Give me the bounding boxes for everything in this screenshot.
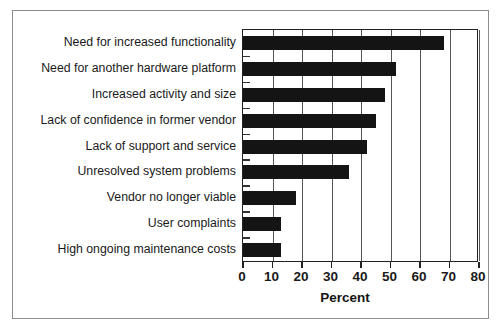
chart-figure: Need for increased functionalityNeed for…	[0, 0, 503, 332]
bar	[243, 62, 396, 76]
x-axis-tick-80	[478, 262, 480, 268]
y-axis-tick	[243, 159, 250, 161]
gridline-80	[479, 30, 480, 261]
y-axis-tick	[243, 82, 250, 84]
x-axis-tick-30	[331, 262, 333, 268]
bar	[243, 243, 281, 257]
category-label: Vendor no longer viable	[20, 190, 236, 204]
bar	[243, 217, 281, 231]
x-tick-label-40: 40	[345, 269, 375, 285]
bar	[243, 114, 376, 128]
x-tick-label-20: 20	[286, 269, 316, 285]
bar	[243, 88, 385, 102]
x-axis-tick-10	[272, 262, 274, 268]
bar	[243, 36, 444, 50]
x-axis-tick-labels: 01020304050607080	[200, 269, 503, 287]
x-tick-label-50: 50	[375, 269, 405, 285]
x-tick-label-60: 60	[404, 269, 434, 285]
category-label: Need for increased functionality	[20, 35, 236, 49]
bar-row	[243, 114, 479, 128]
x-axis-tick-70	[449, 262, 451, 268]
x-axis-tick-20	[301, 262, 303, 268]
y-axis-tick	[243, 185, 250, 187]
category-label: High ongoing maintenance costs	[20, 242, 236, 256]
bar-row	[243, 88, 479, 102]
bar	[243, 140, 367, 154]
x-tick-label-70: 70	[434, 269, 464, 285]
x-axis-tick-0	[242, 262, 244, 268]
x-axis-ticks	[242, 262, 478, 268]
plot-area	[242, 29, 478, 262]
x-tick-label-80: 80	[463, 269, 493, 285]
x-tick-label-10: 10	[257, 269, 287, 285]
bar-row	[243, 191, 479, 205]
category-label: Lack of support and service	[20, 139, 236, 153]
bar	[243, 191, 296, 205]
bar-row	[243, 140, 479, 154]
bar-row	[243, 243, 479, 257]
y-axis-tick	[243, 56, 250, 58]
x-axis-tick-50	[390, 262, 392, 268]
bar-row	[243, 36, 479, 50]
bar	[243, 165, 349, 179]
x-tick-label-0: 0	[227, 269, 257, 285]
x-axis-tick-60	[419, 262, 421, 268]
bar-row	[243, 165, 479, 179]
bar-row	[243, 62, 479, 76]
x-axis-tick-40	[360, 262, 362, 268]
category-label: Need for another hardware platform	[20, 61, 236, 75]
category-label: User complaints	[20, 216, 236, 230]
y-axis-tick	[243, 108, 250, 110]
bar-row	[243, 217, 479, 231]
category-label: Unresolved system problems	[20, 164, 236, 178]
y-axis-tick	[243, 237, 250, 239]
category-label: Increased activity and size	[20, 87, 236, 101]
category-axis-labels: Need for increased functionalityNeed for…	[20, 29, 236, 262]
x-axis-title: Percent	[245, 290, 445, 305]
x-tick-label-30: 30	[316, 269, 346, 285]
y-axis-tick	[243, 211, 250, 213]
y-axis-tick	[243, 134, 250, 136]
category-label: Lack of confidence in former vendor	[20, 113, 236, 127]
